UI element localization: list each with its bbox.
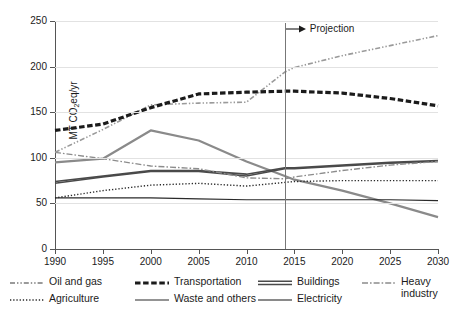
y-axis-tick-label: 150 [5,106,47,117]
x-axis-tick-label: 2015 [274,256,314,267]
legend-swatch [135,277,169,289]
x-axis-tick [247,249,248,254]
gridline [55,158,438,159]
plot-area [55,21,438,249]
legend-swatch-dotted [10,294,44,306]
legend-label: Agriculture [49,293,99,305]
legend-swatch [135,294,169,306]
projection-divider-line [285,23,286,249]
legend-label: Electricity [297,293,342,305]
legend-swatch [10,277,44,289]
legend-swatch-solid-thin [135,294,169,306]
legend-label: Waste and others [174,293,256,305]
legend-item-heavy-industry[interactable]: Heavy industry [362,276,438,299]
x-axis-tick [390,249,391,254]
x-axis-tick [151,249,152,254]
x-axis-tick-label: 1995 [83,256,123,267]
projection-label: Projection [310,23,354,34]
y-axis-tick-label: 250 [5,15,47,26]
x-axis-tick [103,249,104,254]
y-axis-tick [50,21,55,22]
y-axis-tick-label: 50 [5,197,47,208]
x-axis-tick-label: 2025 [370,256,410,267]
legend-label: Heavy industry [401,276,438,299]
series-line-oil-and-gas [55,36,438,153]
projection-arrow-icon [286,23,308,35]
x-axis-tick [55,249,56,254]
y-axis-tick-label: 100 [5,152,47,163]
legend-item-agriculture[interactable]: Agriculture [10,293,99,306]
legend-item-transportation[interactable]: Transportation [135,276,241,289]
gridline [55,67,438,68]
legend-swatch-solid-double [258,277,292,289]
series-line-waste-and-others [55,198,438,201]
gridline [55,203,438,204]
x-axis-tick-label: 2000 [131,256,171,267]
x-axis-tick-label: 2005 [179,256,219,267]
legend-swatch [258,294,292,306]
legend-swatch-dash-dot [362,277,396,289]
legend-swatch [258,277,292,289]
legend-swatch [362,277,396,289]
y-axis-tick [50,158,55,159]
x-axis-tick-label: 1990 [35,256,75,267]
y-axis-tick [50,112,55,113]
gridline [55,21,438,22]
legend-item-electricity[interactable]: Electricity [258,293,342,306]
x-axis-tick [199,249,200,254]
x-axis-tick [438,249,439,254]
legend-swatch-solid-grey [258,294,292,306]
gridline [55,112,438,113]
x-axis-tick-label: 2010 [227,256,267,267]
legend-label: Buildings [297,276,340,288]
series-line-transportation [55,91,438,130]
x-axis-tick-label: 2030 [418,256,455,267]
series-line-agriculture [55,181,438,198]
legend-label: Oil and gas [49,276,102,288]
legend-item-buildings[interactable]: Buildings [258,276,340,289]
y-axis-tick-label: 200 [5,61,47,72]
legend-swatch-dash-dot-dot [10,277,44,289]
y-axis-tick [50,203,55,204]
legend-swatch-dashed-heavy [135,277,169,289]
legend-swatch [10,294,44,306]
emissions-line-chart: MT CO2eq/yr 050100150200250 199019952000… [0,0,455,320]
x-axis-tick [294,249,295,254]
series-canvas [55,21,438,249]
legend-item-waste-and-others[interactable]: Waste and others [135,293,256,306]
legend-label: Transportation [174,276,241,288]
legend-item-oil-and-gas[interactable]: Oil and gas [10,276,102,289]
x-axis-tick [342,249,343,254]
chart-legend: Oil and gasTransportationBuildingsHeavy … [10,276,455,316]
y-axis-tick [50,67,55,68]
y-axis-tick-label: 0 [5,243,47,254]
x-axis-tick-label: 2020 [322,256,362,267]
